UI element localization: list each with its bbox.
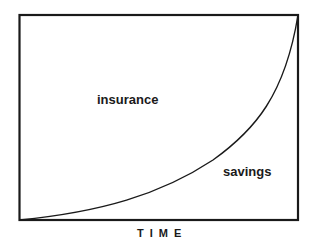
insurance-savings-diagram: insurance savings TIME <box>0 0 316 245</box>
x-axis-label: TIME <box>137 227 187 239</box>
diagram-canvas <box>0 0 316 245</box>
savings-label: savings <box>223 164 271 179</box>
growth-curve <box>20 15 299 220</box>
insurance-label: insurance <box>97 92 158 107</box>
